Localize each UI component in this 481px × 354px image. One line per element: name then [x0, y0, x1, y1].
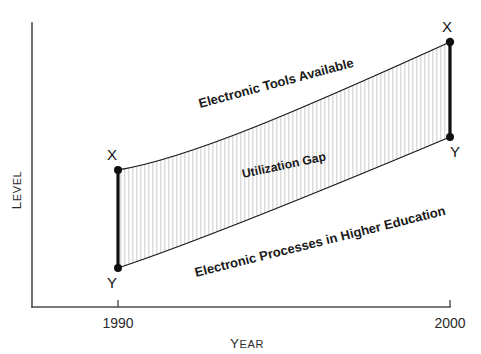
marker-dot-left-bottom [114, 264, 122, 272]
chart-container: 1990 2000 LEVEL YEAR X Y X Y Electronic … [0, 0, 481, 354]
x-axis-title-cap: Y [230, 336, 240, 351]
x-axis-title: YEAR [230, 336, 264, 351]
point-label-right-top: X [442, 18, 452, 35]
point-label-left-top: X [107, 146, 117, 163]
marker-dot-right-top [446, 38, 454, 46]
y-axis-title: LEVEL [9, 171, 24, 210]
marker-dot-right-bottom [446, 133, 454, 141]
y-axis-title-rest: EVEL [11, 171, 23, 202]
x-axis-title-rest: EAR [240, 338, 264, 350]
x-tick-label-2000: 2000 [434, 315, 465, 331]
marker-dot-left-top [114, 166, 122, 174]
y-axis-title-cap: L [9, 201, 24, 209]
point-label-left-bottom: Y [107, 274, 117, 291]
point-label-right-bottom: Y [450, 143, 460, 160]
chart-canvas: 1990 2000 LEVEL YEAR X Y X Y Electronic … [0, 0, 481, 354]
x-tick-label-1990: 1990 [102, 315, 133, 331]
